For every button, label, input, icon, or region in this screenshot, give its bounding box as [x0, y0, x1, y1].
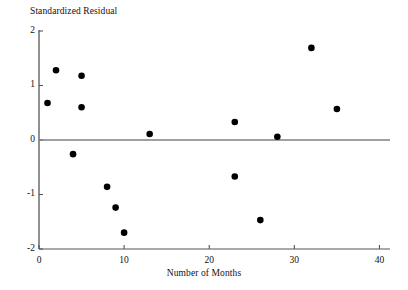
x-axis-title: Number of Months	[0, 268, 408, 278]
data-point	[78, 104, 85, 111]
scatter-plot: Standardized Residual Number of Months 2…	[0, 0, 408, 290]
x-tick-label: 20	[194, 255, 224, 265]
data-point	[334, 106, 341, 113]
y-tick-label: 1	[15, 79, 35, 89]
x-tick-label: 0	[24, 255, 54, 265]
x-tick-label: 10	[109, 255, 139, 265]
data-point	[231, 119, 238, 126]
y-tick-label: 2	[15, 25, 35, 35]
data-point	[78, 72, 85, 79]
data-point	[274, 133, 281, 140]
y-tick-label: 0	[15, 134, 35, 144]
data-point	[231, 173, 238, 180]
data-point	[104, 184, 111, 191]
data-point	[146, 131, 153, 138]
x-tick-label: 30	[279, 255, 309, 265]
x-tick-label: 40	[364, 255, 394, 265]
data-point	[308, 45, 315, 52]
y-tick-label: -1	[15, 188, 35, 198]
data-point	[257, 217, 264, 224]
data-point	[53, 67, 60, 74]
data-point	[44, 100, 51, 107]
y-tick-label: -2	[15, 243, 35, 253]
data-point	[112, 204, 119, 211]
data-point	[121, 229, 128, 236]
data-point	[70, 151, 77, 158]
plot-canvas	[0, 0, 408, 290]
